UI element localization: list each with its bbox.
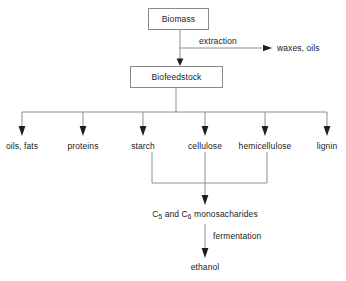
monosacharides-subscript-6: 6 bbox=[188, 213, 192, 220]
node-biofeedstock-label: Biofeedstock bbox=[152, 72, 202, 82]
node-biofeedstock[interactable]: Biofeedstock bbox=[130, 66, 223, 88]
node-hemicellulose: hemicellulose bbox=[239, 142, 292, 151]
arrowhead-cellulose bbox=[202, 126, 209, 136]
arrowhead-proteins bbox=[80, 126, 87, 136]
arrowhead-oils-fats bbox=[19, 126, 26, 136]
node-waxes-oils: waxes, oils bbox=[277, 44, 320, 53]
node-starch: starch bbox=[131, 142, 155, 151]
monosacharides-mid: and C bbox=[162, 209, 188, 219]
arrowhead-lignin bbox=[324, 126, 331, 136]
arrowhead-monosacharides bbox=[202, 195, 209, 205]
arrowhead-waxes-oils bbox=[263, 45, 272, 52]
node-biomass-label: Biomass bbox=[162, 14, 195, 24]
arrowhead-ethanol bbox=[202, 248, 209, 258]
flowchart-canvas: Biomass Biofeedstock extraction fermenta… bbox=[0, 0, 346, 281]
edge-label-fermentation: fermentation bbox=[213, 232, 261, 241]
node-ethanol: ethanol bbox=[191, 263, 220, 272]
node-monosacharides: C5 and C6 monosacharides bbox=[152, 210, 258, 219]
node-oils-fats: oils, fats bbox=[6, 142, 38, 151]
node-lignin: lignin bbox=[317, 142, 337, 151]
arrowhead-starch bbox=[140, 126, 147, 136]
node-biomass[interactable]: Biomass bbox=[148, 8, 209, 30]
monosacharides-subscript-5: 5 bbox=[158, 213, 162, 220]
node-proteins: proteins bbox=[67, 142, 98, 151]
arrowhead-biofeedstock bbox=[177, 59, 184, 67]
edge-label-extraction: extraction bbox=[199, 37, 237, 46]
arrowhead-hemicellulose bbox=[262, 126, 269, 136]
monosacharides-suffix: monosacharides bbox=[192, 209, 258, 219]
node-cellulose: cellulose bbox=[188, 142, 222, 151]
